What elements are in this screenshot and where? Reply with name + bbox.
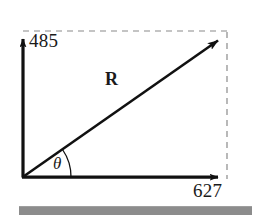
theta-angle-label: θ <box>53 155 61 172</box>
vector-diagram-figure: 485 627 R θ <box>0 0 258 216</box>
vertical-component-label: 485 <box>29 31 58 50</box>
bottom-gray-bar <box>19 206 252 215</box>
resultant-vector-label: R <box>105 70 118 88</box>
theta-angle-arc <box>63 150 72 178</box>
horizontal-component-label: 627 <box>193 181 222 200</box>
